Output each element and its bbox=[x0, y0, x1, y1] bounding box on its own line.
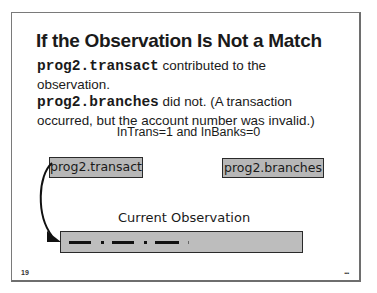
flow-arrow-icon bbox=[0, 0, 377, 293]
page-number: 19 bbox=[21, 269, 29, 276]
more-indicator: ... bbox=[344, 266, 349, 276]
